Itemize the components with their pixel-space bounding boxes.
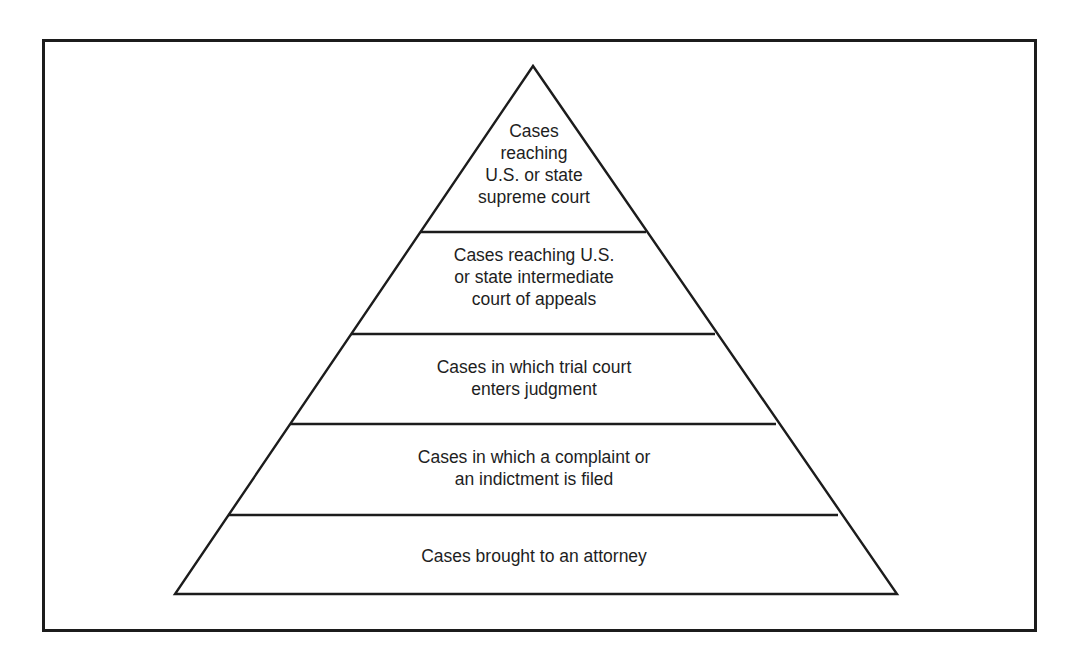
tier-5-label: Cases brought to an attorney — [421, 545, 647, 567]
tier-3-label: Cases in which trial court enters judgme… — [437, 356, 632, 400]
tier-1-label: Cases reaching U.S. or state supreme cou… — [478, 120, 590, 208]
tier-4-label: Cases in which a complaint or an indictm… — [418, 446, 650, 490]
tier-2-label: Cases reaching U.S. or state intermediat… — [454, 244, 615, 310]
